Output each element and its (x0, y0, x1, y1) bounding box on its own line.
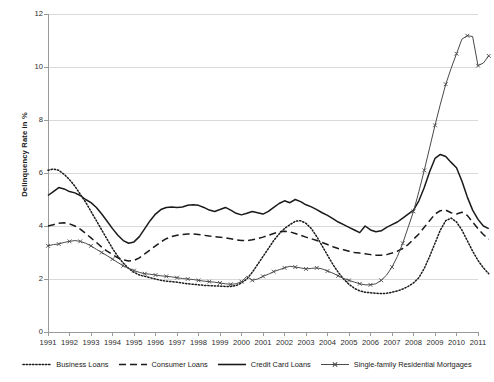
data-point-marker (487, 54, 491, 58)
series-line-single-family-residential-mortgages (48, 36, 489, 285)
data-point-marker (111, 257, 115, 261)
y-tick-label: 8 (21, 116, 43, 124)
dotted-line-key (22, 360, 52, 369)
chart-legend: Business LoansConsumer LoansCredit Card … (0, 360, 494, 369)
gridlines (48, 14, 478, 279)
legend-item[interactable]: Business Loans (22, 360, 108, 369)
legend-item[interactable]: Credit Card Loans (217, 360, 311, 369)
axes (44, 14, 478, 336)
data-point-marker (336, 274, 340, 278)
legend-label: Single-family Residential Mortgages (354, 361, 472, 368)
legend-label: Credit Card Loans (251, 361, 311, 368)
marker-line-key (320, 360, 350, 369)
legend-item[interactable]: Single-family Residential Mortgages (320, 360, 472, 369)
dashed-line-key (118, 360, 148, 369)
plot-svg (48, 14, 478, 332)
data-point-marker (89, 244, 93, 248)
data-point-marker (121, 264, 125, 268)
y-tick-label: 4 (21, 222, 43, 230)
y-tick-label: 12 (21, 10, 43, 18)
legend-label: Business Loans (56, 361, 108, 368)
y-tick-label: 6 (21, 169, 43, 177)
legend-item[interactable]: Consumer Loans (118, 360, 208, 369)
data-point-marker (100, 251, 104, 255)
legend-label: Consumer Loans (152, 361, 208, 368)
y-tick-label: 10 (21, 63, 43, 71)
x-axis-tick-labels: 1991199219931994199519961997199819992000… (0, 339, 494, 353)
solid-line-key (217, 360, 247, 369)
x-tick-label: 2011 (463, 339, 493, 347)
y-tick-label: 0 (21, 328, 43, 336)
delinquency-rate-line-chart: Delinquency Rate in % 024681012 19911992… (0, 0, 494, 382)
y-axis-tick-labels: 024681012 (18, 0, 43, 382)
y-tick-label: 2 (21, 275, 43, 283)
data-point-marker (390, 265, 394, 269)
series-line-consumer-loans (48, 210, 489, 261)
plot-area (48, 14, 478, 332)
